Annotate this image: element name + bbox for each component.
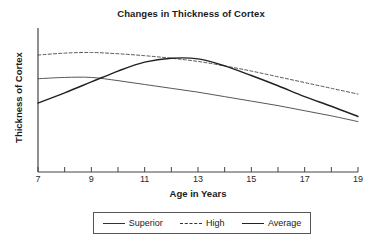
legend-label: Average: [268, 218, 301, 228]
legend-item-average[interactable]: Average: [242, 218, 301, 228]
x-tick-label: 19: [346, 174, 370, 184]
legend-label: High: [206, 218, 225, 228]
legend-swatch-icon: [103, 220, 125, 227]
legend-swatch-icon: [242, 220, 264, 227]
series-line-average: [38, 58, 358, 117]
chart-legend: SuperiorHighAverage: [93, 212, 311, 234]
legend-item-high[interactable]: High: [180, 218, 225, 228]
x-axis-label: Age in Years: [38, 188, 358, 199]
axes: [38, 28, 358, 172]
legend-item-superior[interactable]: Superior: [103, 218, 163, 228]
x-tick-label: 9: [79, 174, 103, 184]
x-tick-label: 17: [293, 174, 317, 184]
data-series: [38, 52, 358, 121]
x-tick-label: 11: [133, 174, 157, 184]
plot-area: [0, 0, 382, 243]
legend-swatch-icon: [180, 220, 202, 227]
legend-label: Superior: [129, 218, 163, 228]
chart-container: Changes in Thickness of Cortex Thickness…: [0, 0, 382, 243]
x-tick-label: 15: [239, 174, 263, 184]
x-tick-label: 7: [26, 174, 50, 184]
x-tick-label: 13: [186, 174, 210, 184]
x-axis-ticks: [38, 167, 358, 172]
